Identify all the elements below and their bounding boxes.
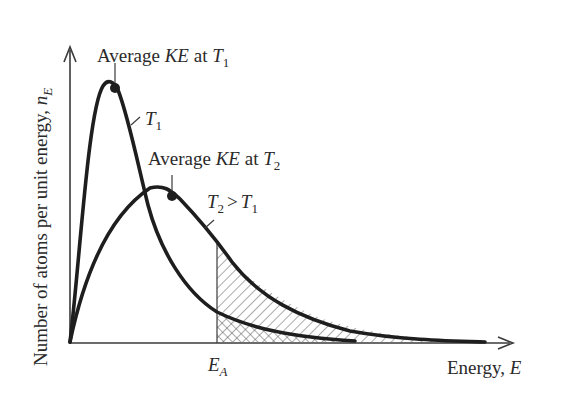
maxwell-boltzmann-chart: Average KE at T1 T1 Average KE at T2 T2>… [0, 0, 562, 395]
x-axis-label: Energy, E [447, 357, 522, 378]
avg-ke-t2-label: Average KE at T2 [148, 148, 280, 173]
t1-curve-label: T1 [145, 108, 162, 133]
activation-energy-label: EA [207, 354, 228, 379]
avg-ke-t1-dot [110, 83, 120, 93]
avg-ke-t1-label: Average KE at T1 [97, 45, 229, 70]
t2-label-leader [205, 220, 214, 228]
avg-ke-t2-dot [167, 191, 177, 201]
t2-curve-label: T2>T1 [207, 191, 258, 216]
t1-label-leader [131, 117, 140, 125]
y-axis-label: Number of atoms per unit energy, nE [30, 88, 55, 366]
